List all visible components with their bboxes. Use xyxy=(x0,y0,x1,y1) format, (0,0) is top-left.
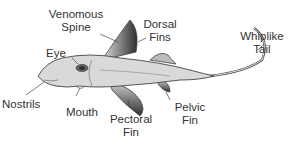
chimaera-diagram: Venomous Spine Dorsal Fins Whiplike Tail… xyxy=(0,0,300,152)
pectoral-fin xyxy=(110,82,143,116)
label-line: Pelvic xyxy=(172,101,208,114)
label-line: Whiplike xyxy=(234,30,290,43)
label-line: Fins xyxy=(140,31,180,44)
label-pectoral-fin: Pectoral Fin xyxy=(108,113,154,139)
label-nostrils: Nostrils xyxy=(2,98,40,111)
label-mouth: Mouth xyxy=(66,106,98,119)
label-line: Fin xyxy=(172,114,208,127)
label-venomous-spine: Venomous Spine xyxy=(44,8,108,34)
label-whiplike-tail: Whiplike Tail xyxy=(234,30,290,56)
label-dorsal-fins: Dorsal Fins xyxy=(140,18,180,44)
label-pelvic-fin: Pelvic Fin xyxy=(172,101,208,127)
label-eye: Eye xyxy=(46,47,66,60)
label-line: Tail xyxy=(234,43,290,56)
label-line: Venomous xyxy=(44,8,108,21)
label-line: Fin xyxy=(108,126,154,139)
label-line: Dorsal xyxy=(140,18,180,31)
label-line: Pectoral xyxy=(108,113,154,126)
label-line: Spine xyxy=(44,21,108,34)
